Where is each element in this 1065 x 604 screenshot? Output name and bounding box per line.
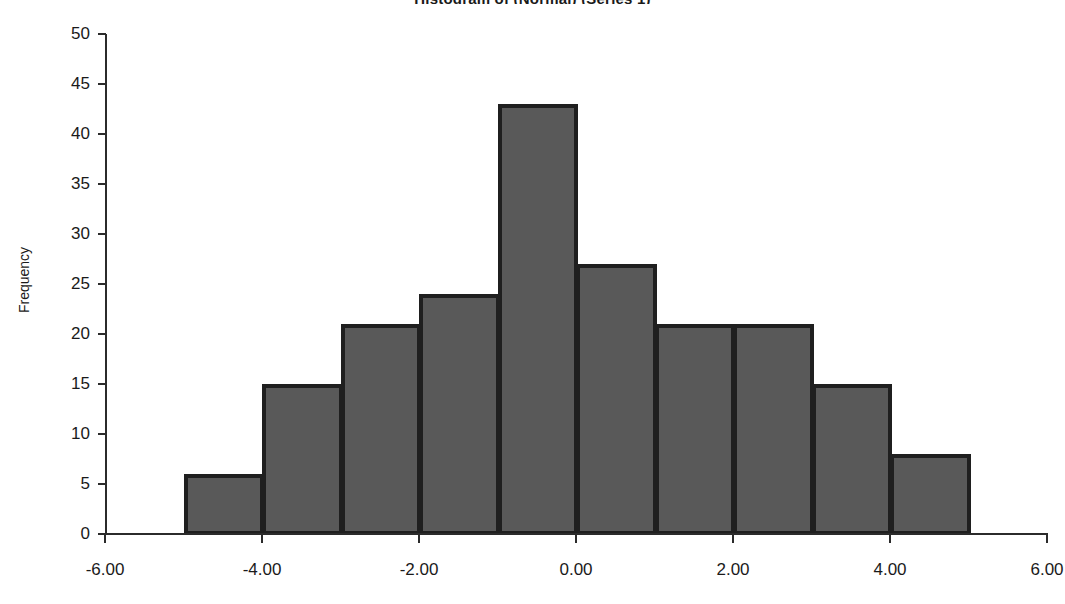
y-tick-label: 35 [40, 174, 90, 194]
y-tick-label-wrap: 30 [40, 234, 90, 254]
x-tick-label: 0.00 [516, 560, 636, 580]
x-tick-label: -4.00 [202, 560, 322, 580]
x-tick-label: 2.00 [673, 560, 793, 580]
histogram-bar [184, 474, 265, 535]
x-tick-mark [418, 535, 420, 543]
y-tick-label-wrap: 20 [40, 334, 90, 354]
x-tick-label: -6.00 [45, 560, 165, 580]
y-tick-label: 15 [40, 374, 90, 394]
x-tick-mark [732, 535, 734, 543]
histogram-chart: Histogram of (Normal) (Series 1) Frequen… [0, 0, 1065, 604]
histogram-bar [419, 294, 500, 535]
histogram-bar [498, 104, 579, 535]
x-tick-label: 4.00 [830, 560, 950, 580]
y-tick-label: 10 [40, 424, 90, 444]
x-axis-line [105, 533, 1048, 535]
histogram-bar [733, 324, 814, 535]
y-tick-label-wrap: 15 [40, 384, 90, 404]
histogram-bar [262, 384, 343, 535]
x-tick-mark [1046, 535, 1048, 543]
x-tick-mark [889, 535, 891, 543]
y-tick-label-wrap: 25 [40, 284, 90, 304]
x-tick-mark [261, 535, 263, 543]
histogram-bar [890, 454, 971, 535]
plot-area: Frequency 05101520253035404550 -6.00-4.0… [0, 0, 1065, 604]
y-tick-label-wrap: 10 [40, 434, 90, 454]
histogram-bar [341, 324, 422, 535]
y-tick-label: 50 [40, 24, 90, 44]
y-tick-label: 0 [40, 524, 90, 544]
x-tick-label: 6.00 [987, 560, 1065, 580]
histogram-bar [655, 324, 736, 535]
y-axis-title: Frequency [16, 220, 32, 340]
y-tick-label: 5 [40, 474, 90, 494]
y-tick-label-wrap: 5 [40, 484, 90, 504]
y-tick-label-wrap: 35 [40, 184, 90, 204]
y-axis-line [105, 34, 107, 535]
histogram-bar [812, 384, 893, 535]
x-tick-mark [104, 535, 106, 543]
y-tick-label-wrap: 0 [40, 534, 90, 554]
y-tick-label-wrap: 45 [40, 84, 90, 104]
y-tick-label: 45 [40, 74, 90, 94]
y-tick-label: 40 [40, 124, 90, 144]
y-tick-label: 30 [40, 224, 90, 244]
y-tick-label-wrap: 40 [40, 134, 90, 154]
y-tick-label: 25 [40, 274, 90, 294]
y-tick-label: 20 [40, 324, 90, 344]
x-tick-label: -2.00 [359, 560, 479, 580]
y-tick-label-wrap: 50 [40, 34, 90, 54]
x-tick-mark [575, 535, 577, 543]
histogram-bar [576, 264, 657, 535]
